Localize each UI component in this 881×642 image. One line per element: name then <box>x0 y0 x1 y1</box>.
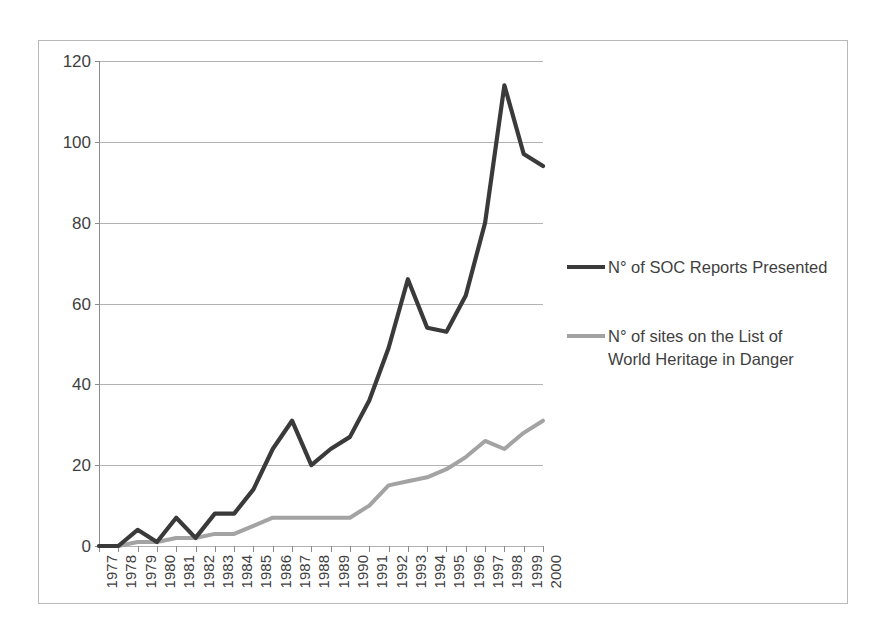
series-lines <box>99 61 543 546</box>
x-tick-label: 1985 <box>258 555 273 588</box>
x-tick-mark <box>504 546 505 552</box>
x-tick-label: 1980 <box>162 555 177 588</box>
x-tick-mark <box>138 546 139 552</box>
x-tick-label: 1978 <box>123 555 138 588</box>
legend-entry-soc-reports: N° of SOC Reports Presented <box>567 256 837 279</box>
x-tick-label: 1990 <box>355 555 370 588</box>
x-tick-mark <box>350 546 351 552</box>
x-tick-label: 1981 <box>181 555 196 588</box>
x-tick-mark <box>234 546 235 552</box>
x-tick-mark <box>446 546 447 552</box>
y-tick-label: 80 <box>72 214 91 231</box>
y-tick-label: 60 <box>72 295 91 312</box>
x-tick-mark <box>215 546 216 552</box>
chart-figure: 020406080100120 197719781979198019811982… <box>38 40 848 604</box>
gridline <box>99 546 543 547</box>
x-tick-label: 1999 <box>529 555 544 588</box>
y-tick-label: 40 <box>72 376 91 393</box>
x-tick-mark <box>485 546 486 552</box>
x-tick-mark <box>369 546 370 552</box>
x-tick-mark <box>408 546 409 552</box>
plot-area: 020406080100120 197719781979198019811982… <box>99 61 543 546</box>
x-tick-mark <box>427 546 428 552</box>
x-tick-label: 1986 <box>278 555 293 588</box>
chart-legend: N° of SOC Reports Presented N° of sites … <box>567 256 837 416</box>
legend-swatch-soc-reports <box>567 265 605 269</box>
x-tick-mark <box>466 546 467 552</box>
x-tick-label: 1996 <box>471 555 486 588</box>
x-tick-label: 1994 <box>432 555 447 588</box>
x-tick-label: 1979 <box>143 555 158 588</box>
x-tick-mark <box>389 546 390 552</box>
x-tick-label: 1993 <box>413 555 428 588</box>
series-line-soc-reports <box>99 85 543 546</box>
x-tick-label: 1997 <box>490 555 505 588</box>
x-tick-mark <box>292 546 293 552</box>
y-tick-label: 0 <box>82 538 91 555</box>
x-tick-mark <box>196 546 197 552</box>
legend-entry-sites-in-danger: N° of sites on the List of World Heritag… <box>567 325 837 371</box>
x-tick-label: 1987 <box>297 555 312 588</box>
x-tick-mark <box>253 546 254 552</box>
x-tick-label: 1984 <box>239 555 254 588</box>
x-tick-mark <box>331 546 332 552</box>
legend-label-sites-in-danger: N° of sites on the List of World Heritag… <box>608 325 794 371</box>
x-tick-mark <box>273 546 274 552</box>
x-tick-label: 1983 <box>220 555 235 588</box>
x-tick-label: 1995 <box>451 555 466 588</box>
series-line-sites-in-danger <box>99 421 543 546</box>
x-tick-label: 2000 <box>548 555 563 588</box>
x-tick-mark <box>543 546 544 552</box>
x-tick-label: 1992 <box>394 555 409 588</box>
x-tick-label: 1998 <box>509 555 524 588</box>
x-tick-label: 1991 <box>374 555 389 588</box>
y-tick-label: 100 <box>63 133 91 150</box>
y-tick-label: 20 <box>72 457 91 474</box>
y-tick-label: 120 <box>63 53 91 70</box>
x-tick-label: 1977 <box>104 555 119 588</box>
x-tick-label: 1988 <box>316 555 331 588</box>
x-tick-mark <box>157 546 158 552</box>
x-tick-label: 1982 <box>201 555 216 588</box>
x-tick-mark <box>311 546 312 552</box>
legend-label-soc-reports: N° of SOC Reports Presented <box>608 256 827 279</box>
x-tick-mark <box>176 546 177 552</box>
legend-swatch-sites-in-danger <box>567 334 605 338</box>
x-tick-label: 1989 <box>336 555 351 588</box>
x-tick-mark <box>524 546 525 552</box>
